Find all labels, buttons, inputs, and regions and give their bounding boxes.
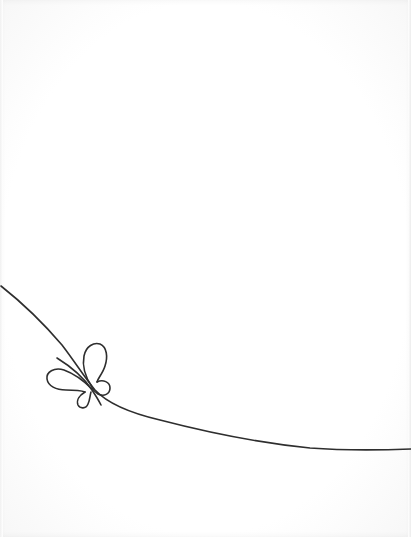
butterfly-icon xyxy=(47,344,110,408)
paper-page: Line-art butterfly on a flowing curve xyxy=(0,0,411,537)
line-art-illustration xyxy=(0,0,411,537)
flowing-curve xyxy=(1,286,411,450)
butterfly-bottom-lobe xyxy=(77,392,91,408)
